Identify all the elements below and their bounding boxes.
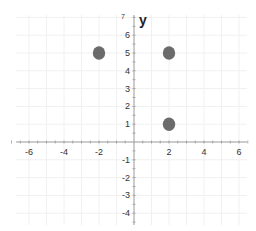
scatter-plot: -6-4-2246 -4-3-2-1123456 y 7	[0, 0, 256, 231]
x-tick-label: -6	[25, 147, 33, 157]
x-axis-tick-labels: -6-4-2246	[25, 147, 242, 157]
y-tick-label: 5	[125, 48, 130, 58]
y-axis-label: y	[139, 12, 147, 28]
grid-lines	[16, 15, 247, 225]
y-tick-label: -1	[122, 155, 130, 165]
data-point	[163, 117, 175, 131]
x-tick-label: 6	[236, 147, 241, 157]
x-tick-label: 2	[166, 147, 171, 157]
y-tick-label: 4	[125, 66, 130, 76]
data-point	[163, 46, 175, 60]
y-tick-label: -2	[122, 173, 130, 183]
y-tick-label: 6	[125, 30, 130, 40]
y-tick-label: 1	[125, 119, 130, 129]
x-tick-label: -2	[95, 147, 103, 157]
y-tick-label: 3	[125, 84, 130, 94]
x-tick-label: 4	[201, 147, 206, 157]
data-point	[93, 46, 105, 60]
y-tick-label: -3	[122, 190, 130, 200]
y-tick-label: -4	[122, 208, 130, 218]
x-tick-label: -4	[60, 147, 68, 157]
y-axis-partial-tick-label: 7	[121, 13, 125, 20]
y-tick-label: 2	[125, 101, 130, 111]
